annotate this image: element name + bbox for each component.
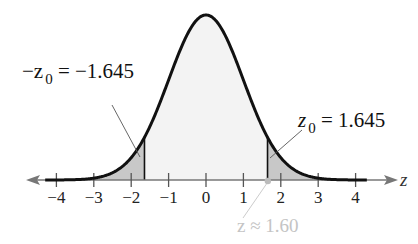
x-tick-label: 3 bbox=[314, 188, 323, 207]
normal-distribution-chart: −4−3−2−101234 z −z0 = −1.645 z0 = 1.645 … bbox=[0, 0, 418, 244]
x-tick-label: 2 bbox=[277, 188, 286, 207]
left-critical-label: −z0 = −1.645 bbox=[22, 59, 134, 87]
x-tick-label: 1 bbox=[239, 188, 248, 207]
chart-canvas: −4−3−2−101234 z −z0 = −1.645 z0 = 1.645 … bbox=[0, 0, 418, 244]
x-tick-label: −3 bbox=[85, 188, 103, 207]
x-tick-label: −1 bbox=[160, 188, 178, 207]
x-tick-label: −2 bbox=[122, 188, 140, 207]
approx-z-label: z ≈ 1.60 bbox=[237, 215, 299, 236]
x-tick-label: −4 bbox=[47, 188, 66, 207]
approx-point-marker bbox=[265, 178, 271, 184]
x-tick-label: 4 bbox=[351, 188, 360, 207]
x-tick-label: 0 bbox=[202, 188, 211, 207]
left-label-leader-line bbox=[112, 105, 140, 157]
right-critical-label: z0 = 1.645 bbox=[297, 108, 385, 136]
right-label-leader-line bbox=[270, 130, 302, 158]
axis-variable-label: z bbox=[399, 169, 408, 190]
